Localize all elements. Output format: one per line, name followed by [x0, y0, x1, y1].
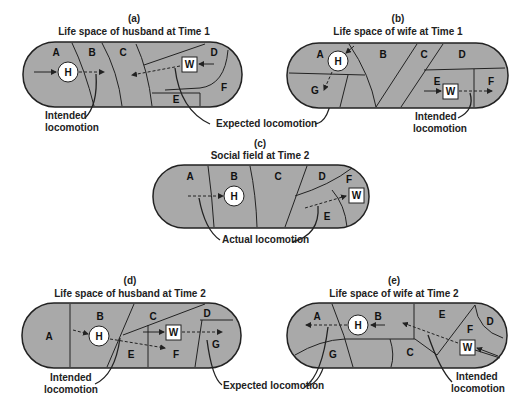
intended-label-a-2: locomotion — [45, 122, 99, 133]
panel-a-letter: (a) — [128, 13, 140, 24]
region-b: B — [379, 49, 386, 60]
panel-d: (d) Life space of husband at Time 2 B A … — [22, 275, 241, 395]
region-a: A — [313, 311, 320, 322]
region-d: D — [486, 316, 493, 327]
actual-locomotion-label: Actual locomotion — [222, 234, 309, 245]
husband-node: H — [64, 67, 71, 78]
intended-label-d-1: Intended — [50, 372, 92, 383]
region-c: C — [119, 47, 126, 58]
panel-a: (a) Life space of husband at Time 1 A B … — [23, 13, 242, 133]
region-f: F — [467, 324, 473, 335]
region-c: C — [274, 171, 281, 182]
region-c: C — [406, 347, 413, 358]
expected-locomotion-label-top: Expected locomotion — [216, 118, 317, 129]
panel-c-letter: (c) — [254, 138, 266, 149]
panel-d-letter: (d) — [124, 275, 137, 286]
region-c: C — [420, 49, 427, 60]
region-d: D — [458, 49, 465, 60]
husband-node: H — [230, 191, 237, 202]
region-d: D — [210, 47, 217, 58]
region-d: D — [203, 308, 210, 319]
region-a: A — [45, 331, 52, 342]
region-g: G — [212, 339, 220, 350]
region-f: F — [173, 349, 179, 360]
intended-label-e-2: locomotion — [451, 383, 505, 394]
husband-node: H — [95, 331, 102, 342]
husband-node: H — [354, 320, 361, 331]
region-g: G — [329, 349, 337, 360]
region-f: F — [221, 82, 227, 93]
panel-a-title: Life space of husband at Time 1 — [58, 26, 210, 37]
region-e: E — [173, 94, 180, 105]
wife-node: W — [463, 342, 473, 353]
region-a: A — [52, 47, 59, 58]
intended-label-d-2: locomotion — [44, 384, 98, 395]
wife-node: W — [169, 327, 179, 338]
intended-label-a-1: Intended — [45, 110, 87, 121]
region-f: F — [346, 174, 352, 185]
region-b: B — [374, 311, 381, 322]
region-e: E — [439, 309, 446, 320]
wife-node: W — [446, 86, 456, 97]
panel-c-title: Social field at Time 2 — [211, 150, 310, 161]
wife-node: W — [185, 59, 195, 70]
lewin-life-space-diagram: (a) Life space of husband at Time 1 A B … — [0, 0, 523, 413]
wife-node: W — [352, 190, 362, 201]
panel-c: (c) Social field at Time 2 A B C D E F H… — [153, 138, 369, 245]
panel-b-letter: (b) — [392, 13, 405, 24]
panel-e-title: Life space of wife at Time 2 — [329, 288, 459, 299]
panel-b-title: Life space of wife at Time 1 — [333, 26, 463, 37]
husband-node: H — [334, 56, 341, 67]
region-c: C — [149, 311, 156, 322]
region-a: A — [316, 49, 323, 60]
region-g: G — [311, 85, 319, 96]
panel-d-title: Life space of husband at Time 2 — [54, 288, 206, 299]
region-d: D — [318, 171, 325, 182]
intended-label-b-1: Intended — [415, 111, 457, 122]
region-b: B — [230, 171, 237, 182]
region-e: E — [324, 211, 331, 222]
intended-label-e-1: Intended — [456, 371, 498, 382]
region-f: F — [488, 76, 494, 87]
panel-e-letter: (e) — [388, 275, 400, 286]
region-e: E — [434, 76, 441, 87]
region-b: B — [88, 47, 95, 58]
panel-b: (b) Life space of wife at Time 1 A B C D… — [287, 13, 508, 134]
region-a: A — [186, 171, 193, 182]
intended-label-b-2: locomotion — [413, 123, 467, 134]
region-b: B — [96, 311, 103, 322]
region-e: E — [128, 349, 135, 360]
